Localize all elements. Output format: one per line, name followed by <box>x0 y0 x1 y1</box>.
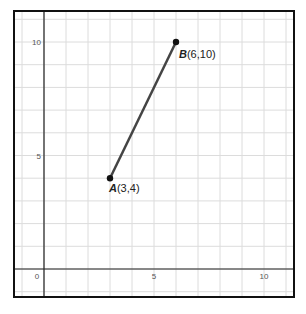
point-label-a: A(3,4) <box>108 182 140 194</box>
point-label-b: B(6,10) <box>179 48 216 60</box>
line-segment-ab: A(3,4)B(6,10) <box>107 39 216 194</box>
point-name: B <box>179 48 187 60</box>
y-tick-label: 10 <box>32 38 41 47</box>
point-marker-b <box>173 39 179 45</box>
point-name: A <box>108 182 117 194</box>
x-tick-label: 10 <box>260 272 269 281</box>
grid-lines <box>14 11 294 297</box>
x-tick-label: 0 <box>35 272 40 281</box>
tick-labels: 0510510 <box>32 38 269 281</box>
x-tick-label: 5 <box>152 272 157 281</box>
point-marker-a <box>107 175 113 181</box>
y-tick-label: 5 <box>37 152 42 161</box>
point-coordinates: (6,10) <box>187 48 216 60</box>
coordinate-plane: 0510510 A(3,4)B(6,10) <box>0 0 306 314</box>
point-coordinates: (3,4) <box>117 182 140 194</box>
